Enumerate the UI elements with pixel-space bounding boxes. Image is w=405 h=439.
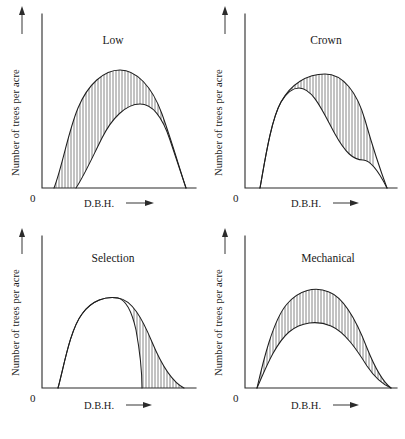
- panel-mechanical: Number of trees per acre 0 Mechanical: [203, 220, 405, 439]
- panel-crown-plot: Number of trees per acre 0 Crown: [203, 0, 405, 219]
- curve-original-crown: [260, 74, 387, 188]
- y-axis-arrow-crown: [222, 6, 228, 34]
- panel-selection: Number of trees per acre 0 Selection: [0, 220, 202, 439]
- y-axis-arrow-selection: [19, 228, 25, 254]
- x-axis-arrow-mechanical: [333, 402, 359, 408]
- y-axis-arrow-low: [19, 6, 25, 34]
- panel-title-low: Low: [102, 34, 124, 46]
- x-axis-arrow-low: [126, 200, 154, 206]
- panel-crown: Number of trees per acre 0 Crown: [203, 0, 405, 219]
- y-axis-label-crown: Number of trees per acre: [213, 69, 224, 176]
- hatch-fill-mechanical: [258, 270, 387, 392]
- y-axis-label-selection: Number of trees per acre: [10, 269, 21, 376]
- y-axis-arrow-mechanical: [222, 228, 228, 254]
- origin-label-mechanical: 0: [233, 392, 239, 404]
- panel-low-plot: Number of trees per acre 0 Low: [0, 0, 202, 219]
- curve-original-selection: [58, 298, 184, 388]
- x-axis-arrow-crown: [333, 200, 359, 206]
- panel-selection-plot: Number of trees per acre 0 Selection: [0, 220, 202, 439]
- y-axis-label-low: Number of trees per acre: [10, 69, 21, 176]
- curve-residual-mechanical: [257, 323, 391, 388]
- panel-title-mechanical: Mechanical: [301, 252, 355, 264]
- thinning-methods-figure: Number of trees per acre 0 Low: [0, 0, 405, 439]
- origin-label-selection: 0: [30, 392, 36, 404]
- curve-residual-selection: [58, 298, 142, 388]
- panel-title-crown: Crown: [310, 34, 342, 46]
- x-axis-label-crown: D.B.H.: [291, 198, 321, 209]
- x-axis-label-low: D.B.H.: [84, 198, 114, 209]
- x-axis-label-selection: D.B.H.: [84, 400, 114, 411]
- curve-residual-low: [76, 104, 186, 188]
- panel-title-selection: Selection: [92, 252, 135, 264]
- panel-mechanical-plot: Number of trees per acre 0 Mechanical: [203, 220, 405, 439]
- y-axis-label-mechanical: Number of trees per acre: [213, 269, 224, 376]
- origin-label-crown: 0: [233, 192, 239, 204]
- panel-low: Number of trees per acre 0 Low: [0, 0, 202, 219]
- x-axis-arrow-selection: [126, 402, 152, 408]
- origin-label-low: 0: [30, 192, 36, 204]
- curve-residual-crown: [260, 88, 387, 188]
- x-axis-label-mechanical: D.B.H.: [291, 400, 321, 411]
- hatch-fill-crown: [283, 60, 373, 190]
